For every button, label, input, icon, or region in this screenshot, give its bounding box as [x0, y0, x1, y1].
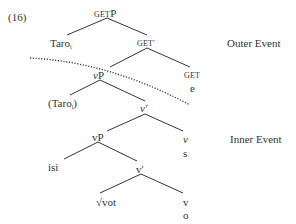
node-v-inner: v [183, 196, 189, 208]
node-taro-trace: (Taroi) [48, 97, 77, 113]
node-isi: isi [48, 161, 58, 173]
node-v-head: v [183, 133, 188, 145]
node-vbar-outer: v' [140, 102, 147, 114]
tree-branches [0, 0, 296, 224]
node-getp: GETP [94, 7, 116, 21]
node-root-vot: √vot [96, 196, 116, 208]
node-taro: Taroi [50, 37, 72, 53]
node-vp-outer: vP [93, 69, 104, 81]
example-number: (16) [8, 11, 26, 23]
node-get-head: GET [184, 70, 200, 82]
node-vp-inner: vP [92, 131, 104, 143]
node-o: o [183, 209, 189, 221]
label-outer-event: Outer Event [227, 37, 280, 49]
node-e: e [190, 82, 195, 94]
node-get-bar: GET' [137, 38, 155, 50]
node-s: s [183, 147, 187, 159]
node-vbar-inner: v' [136, 163, 143, 175]
label-inner-event: Inner Event [230, 133, 282, 145]
